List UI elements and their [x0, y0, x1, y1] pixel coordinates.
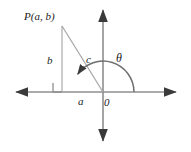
right-triangle: [62, 26, 103, 92]
diagram-svg: [0, 0, 191, 152]
label-point-p: P(a, b): [24, 11, 55, 22]
hypotenuse-c: [62, 26, 103, 92]
label-angle-theta: θ: [116, 52, 122, 64]
right-angle-marker: [53, 83, 62, 92]
diagram-canvas: P(a, b) b c a 0 θ: [0, 0, 191, 152]
label-origin: 0: [104, 97, 110, 108]
label-leg-a: a: [78, 96, 84, 107]
label-hypotenuse-c: c: [86, 54, 91, 65]
angle-arc-theta: [78, 61, 134, 92]
label-leg-b: b: [47, 55, 53, 66]
